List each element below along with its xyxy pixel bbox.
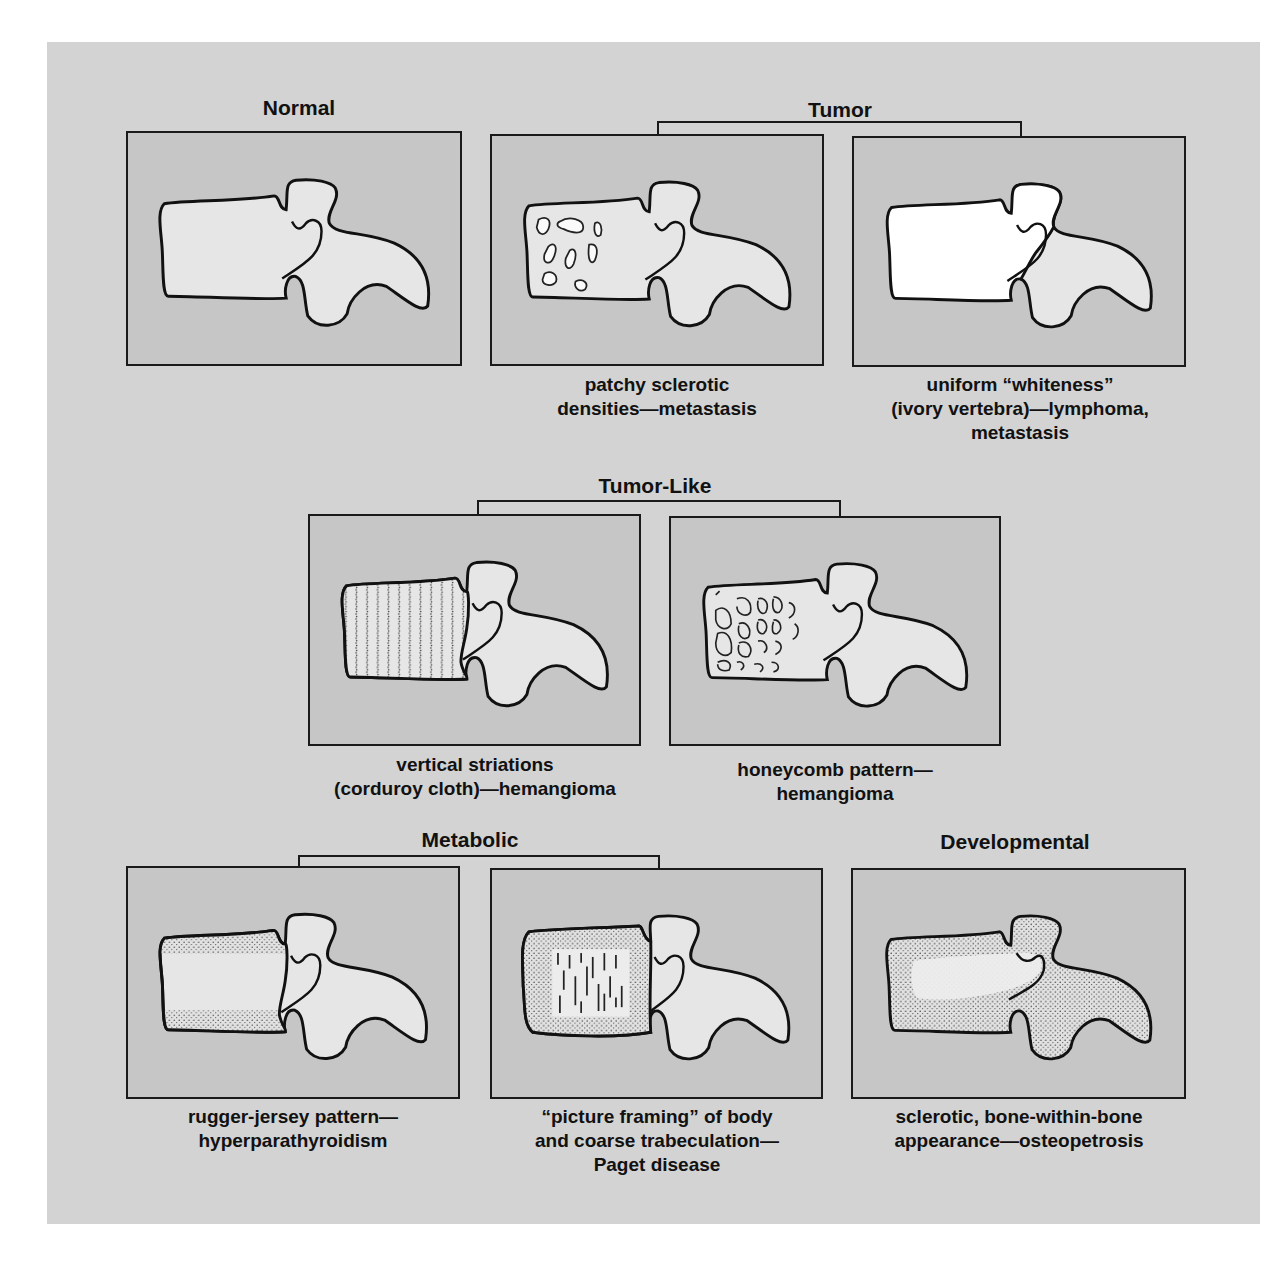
vertebra-honeycomb-icon [671,518,999,744]
vertebra-normal-icon [128,133,460,364]
group-title-tumor-like: Tumor-Like [560,474,750,498]
panel-honeycomb [669,516,1001,746]
caption-vertical-striations: vertical striations (corduroy cloth)—hem… [280,753,670,801]
caption-bone-within-bone: sclerotic, bone-within-bone appearance—o… [836,1105,1202,1153]
caption-honeycomb: honeycomb pattern— hemangioma [669,758,1001,806]
vertebra-rugger-jersey-icon [128,868,458,1097]
group-title-metabolic: Metabolic [380,828,560,852]
panel-ivory-vertebra [852,136,1186,367]
panel-normal [126,131,462,366]
panel-bone-within-bone [851,868,1186,1099]
panel-rugger-jersey [126,866,460,1099]
panel-picture-framing [490,868,823,1099]
group-title-developmental: Developmental [900,830,1130,854]
panel-vertical-striations [308,514,641,746]
vertebra-ivory-icon [854,138,1184,365]
caption-ivory-vertebra: uniform “whiteness” (ivory vertebra)—lym… [830,373,1210,445]
group-title-normal: Normal [214,96,384,120]
caption-picture-framing: “picture framing” of body and coarse tra… [480,1105,834,1177]
vertebra-bone-within-bone-icon [853,870,1184,1097]
caption-rugger-jersey: rugger-jersey pattern— hyperparathyroidi… [126,1105,460,1153]
vertebra-patchy-icon [492,136,822,364]
vertebra-corduroy-icon [310,516,639,744]
panel-patchy-sclerotic [490,134,824,366]
caption-patchy-sclerotic: patchy sclerotic densities—metastasis [490,373,824,421]
group-title-tumor: Tumor [760,98,920,122]
vertebra-picture-framing-icon [492,870,821,1097]
